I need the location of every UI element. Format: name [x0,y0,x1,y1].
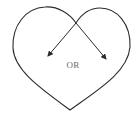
or-label: OR [60,59,86,71]
heart-diagram: OR [0,0,140,115]
right-arrow [76,23,106,59]
left-arrow [48,23,76,56]
